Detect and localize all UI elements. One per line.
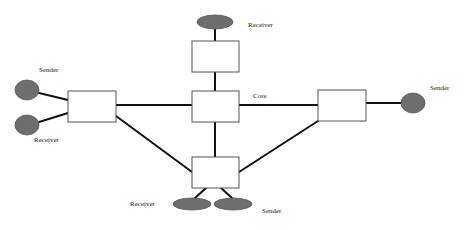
link-bottom-router-to-bottom-receiver <box>195 188 206 198</box>
label-bottom-receiver: Receiver <box>130 200 155 208</box>
host-top-receiver <box>197 15 233 29</box>
link-left-sender-to-left-router <box>39 93 68 100</box>
label-bottom-sender: Sender <box>262 207 281 215</box>
label-top-receiver: Receiver <box>248 21 273 29</box>
label-right-sender: Sender <box>430 84 449 92</box>
routers <box>68 41 366 188</box>
label-left-receiver: Receiver <box>34 136 59 144</box>
host-bottom-receiver <box>173 198 211 210</box>
router-top <box>192 41 239 72</box>
label-core: Core <box>253 92 267 100</box>
router-bottom <box>192 157 239 188</box>
label-left-sender: Sender <box>39 66 58 74</box>
network-diagram <box>0 0 464 230</box>
router-core <box>192 91 239 122</box>
host-left-receiver <box>15 115 39 135</box>
host-bottom-sender <box>214 198 252 210</box>
host-right-sender <box>401 93 425 113</box>
link-left-receiver-to-left-router <box>39 113 68 122</box>
link-right-router-to-bottom-router <box>239 121 318 172</box>
router-left <box>68 91 116 122</box>
router-right <box>318 90 366 121</box>
link-left-router-to-bottom-router <box>116 116 192 172</box>
link-bottom-router-to-bottom-sender <box>221 188 232 198</box>
host-left-sender <box>15 80 39 100</box>
